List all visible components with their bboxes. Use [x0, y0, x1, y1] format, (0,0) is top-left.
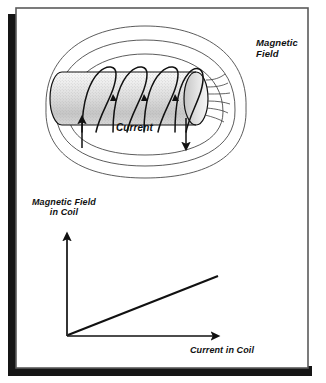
figure-frame	[16, 8, 308, 368]
current-label: Current	[116, 122, 153, 133]
chart-y-axis-label: Magnetic Field in Coil	[32, 197, 96, 217]
figure-root: Magnetic Field Current Magnetic Field in…	[0, 0, 326, 383]
chart-x-axis-label: Current in Coil	[190, 345, 254, 355]
magnetic-field-label: Magnetic Field	[256, 38, 298, 59]
